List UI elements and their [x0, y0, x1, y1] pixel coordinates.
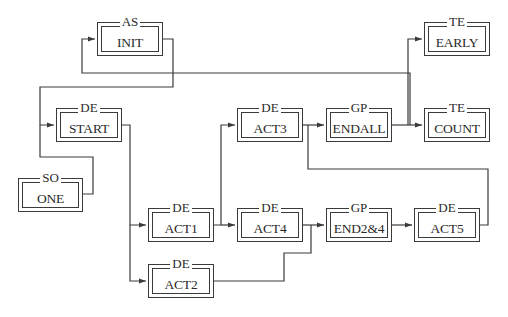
block-act2[interactable]: DE ACT2: [148, 264, 214, 298]
block-count[interactable]: TE COUNT: [424, 108, 490, 142]
block-name-label: END2&4: [327, 222, 391, 236]
block-init[interactable]: AS INIT: [97, 22, 163, 56]
arrowhead-icon: [415, 123, 422, 128]
block-type-text: DE: [259, 200, 280, 215]
block-act4[interactable]: DE ACT4: [237, 208, 303, 242]
block-type-label: DE: [149, 257, 213, 270]
block-type-label: DE: [415, 201, 479, 214]
block-name-label: ACT1: [149, 222, 213, 236]
block-start[interactable]: DE START: [56, 108, 122, 142]
block-name-label: ACT4: [238, 222, 302, 236]
block-type-text: TE: [447, 100, 467, 115]
arrowhead-icon: [405, 223, 412, 228]
block-type-label: TE: [425, 101, 489, 114]
block-type-label: DE: [57, 101, 121, 114]
arrowhead-icon: [88, 37, 95, 42]
block-type-text: DE: [78, 100, 99, 115]
block-name-label: COUNT: [425, 122, 489, 136]
block-type-label: AS: [98, 15, 162, 28]
block-type-text: GP: [349, 100, 370, 115]
arrowhead-icon: [228, 223, 235, 228]
block-type-label: TE: [425, 15, 489, 28]
arrowhead-icon: [317, 123, 324, 128]
block-endall[interactable]: GP ENDALL: [326, 108, 392, 142]
block-act5[interactable]: DE ACT5: [414, 208, 480, 242]
block-name-label: ONE: [19, 192, 82, 206]
block-name-label: ACT3: [238, 122, 302, 136]
block-early[interactable]: TE EARLY: [424, 22, 490, 56]
block-type-text: DE: [170, 256, 191, 271]
block-type-label: DE: [238, 101, 302, 114]
block-type-text: AS: [120, 14, 141, 29]
arrowhead-icon: [139, 223, 146, 228]
block-name-label: ACT2: [149, 278, 213, 292]
block-type-text: SO: [40, 170, 61, 185]
block-name-label: ENDALL: [327, 122, 391, 136]
block-type-text: DE: [436, 200, 457, 215]
arrowhead-icon: [47, 123, 54, 128]
arrowhead-icon: [228, 123, 235, 128]
connector-act1-to-act3: [214, 125, 235, 225]
connector-start-to-act2: [130, 225, 146, 281]
block-type-text: GP: [349, 200, 370, 215]
arrowhead-icon: [139, 279, 146, 284]
block-name-label: EARLY: [425, 36, 489, 50]
block-name-label: INIT: [98, 36, 162, 50]
block-name-label: ACT5: [415, 222, 479, 236]
block-type-text: DE: [259, 100, 280, 115]
block-name-label: START: [57, 122, 121, 136]
block-end24[interactable]: GP END2&4: [326, 208, 392, 242]
arrowhead-icon: [415, 37, 422, 42]
block-act1[interactable]: DE ACT1: [148, 208, 214, 242]
block-type-label: GP: [327, 101, 391, 114]
arrowhead-icon: [317, 223, 324, 228]
block-type-text: TE: [447, 14, 467, 29]
block-type-text: DE: [170, 200, 191, 215]
block-type-label: GP: [327, 201, 391, 214]
block-one[interactable]: SO ONE: [18, 178, 83, 212]
block-type-label: DE: [238, 201, 302, 214]
block-act3[interactable]: DE ACT3: [237, 108, 303, 142]
block-type-label: DE: [149, 201, 213, 214]
block-type-label: SO: [19, 171, 82, 184]
connector-start-to-act1: [122, 125, 146, 225]
